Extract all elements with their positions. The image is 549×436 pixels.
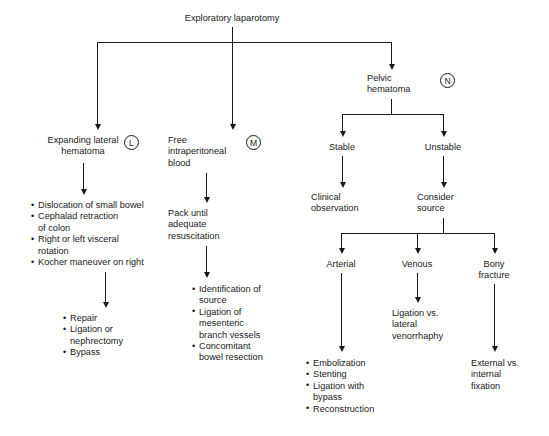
node-pack-until-resuscitation: Pack until adequate resuscitation xyxy=(168,208,258,242)
arrowhead-middle-to-pack xyxy=(204,197,210,203)
arrowhead-clinical-observation xyxy=(340,182,346,188)
list-item: Reconstruction xyxy=(306,404,426,415)
list-item: Ligation with bypass xyxy=(306,381,426,404)
node-stable: Stable xyxy=(297,142,387,153)
list-item: Dislocation of small bowel xyxy=(31,200,191,211)
list-item: Right or left visceral rotation xyxy=(31,234,191,257)
arrowhead-arterial-outcomes xyxy=(339,346,345,352)
list-item: Ligation or nephrectomy xyxy=(63,324,193,347)
arrowhead-unstable xyxy=(441,131,447,137)
connector-venous-to-action xyxy=(417,273,418,297)
connector-middle-to-pack xyxy=(206,173,207,197)
connector-unstable-to-source xyxy=(443,156,444,182)
arrowhead-middle-outcomes xyxy=(204,272,210,278)
list-arterial-outcomes: Embolization Stenting Ligation with bypa… xyxy=(306,358,426,415)
connector-top-bus xyxy=(97,42,391,43)
list-item: Embolization xyxy=(306,358,426,369)
connector-bony-drop xyxy=(494,233,495,248)
connector-stable-to-observation xyxy=(342,156,343,182)
connector-venous-drop xyxy=(417,233,418,248)
node-arterial: Arterial xyxy=(306,259,376,270)
connector-right-drop xyxy=(391,42,392,64)
connector-source-stem xyxy=(443,218,444,233)
connector-unstable-drop xyxy=(443,114,444,131)
arrowhead-left-outcomes xyxy=(103,302,109,308)
marker-badge-l: L xyxy=(124,135,139,150)
list-item: Ligation of mesenteric branch vessels xyxy=(192,307,312,341)
connector-bony-to-action xyxy=(494,284,495,346)
node-pelvic-hematoma: Pelvic hematoma xyxy=(367,73,439,96)
node-external-vs-internal-fixation: External vs. internal fixation xyxy=(471,358,547,392)
list-item: Bypass xyxy=(63,347,193,358)
list-item: Identification of source xyxy=(192,284,312,307)
diagram-title: Exploratory laparotomy xyxy=(132,13,332,24)
connector-left-steps-to-outcomes xyxy=(105,272,106,302)
arrowhead-left-to-steps xyxy=(81,189,87,195)
node-consider-source: Consider source xyxy=(417,192,487,215)
list-item: Cephalad retraction of colon xyxy=(31,211,191,234)
arrowhead-consider-source xyxy=(441,182,447,188)
connector-left-drop xyxy=(97,42,98,124)
arrowhead-right-branch xyxy=(389,64,395,70)
arrowhead-arterial xyxy=(339,248,345,254)
connector-pack-to-outcomes xyxy=(206,246,207,272)
connector-arterial-to-outcomes xyxy=(341,273,342,346)
marker-badge-n: N xyxy=(440,73,455,88)
arrowhead-bony-action xyxy=(492,346,498,352)
connector-pelvic-bus xyxy=(342,114,443,115)
arrowhead-left-branch xyxy=(95,124,101,130)
list-left-outcomes: Repair Ligation or nephrectomy Bypass xyxy=(63,313,193,359)
connector-title-stem xyxy=(232,27,233,42)
node-ligation-vs-lateral-venorrhaphy: Ligation vs. lateral venorrhaphy xyxy=(392,308,474,342)
node-bony-fracture: Bony fracture xyxy=(459,259,529,282)
connector-left-to-steps xyxy=(83,163,84,189)
connector-stable-drop xyxy=(342,114,343,131)
arrowhead-stable xyxy=(340,131,346,137)
connector-middle-drop xyxy=(232,42,233,124)
marker-badge-m: M xyxy=(246,135,261,150)
list-middle-outcomes: Identification of source Ligation of mes… xyxy=(192,284,312,364)
node-clinical-observation: Clinical observation xyxy=(311,192,391,215)
arrowhead-venous xyxy=(415,248,421,254)
list-item: Concomitant bowel resection xyxy=(192,341,312,364)
node-venous: Venous xyxy=(382,259,452,270)
list-left-steps: Dislocation of small bowel Cephalad retr… xyxy=(31,200,191,268)
list-item: Stenting xyxy=(306,369,426,380)
arrowhead-bony-fracture xyxy=(492,248,498,254)
node-free-intraperitoneal-blood: Free intraperitoneal blood xyxy=(168,135,248,169)
arrowhead-middle-branch xyxy=(230,124,236,130)
flowchart-canvas: Exploratory laparotomy Expanding lateral… xyxy=(0,0,549,436)
connector-pelvic-stem xyxy=(391,99,392,114)
node-unstable: Unstable xyxy=(398,142,488,153)
list-item: Repair xyxy=(63,313,193,324)
list-item: Kocher maneuver on right xyxy=(31,257,191,268)
arrowhead-venous-action xyxy=(415,297,421,303)
connector-arterial-drop xyxy=(341,233,342,248)
